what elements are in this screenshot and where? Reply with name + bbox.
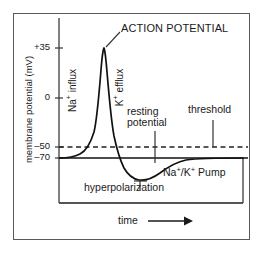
pump-tail: Pump (195, 166, 225, 178)
label-action-potential: ACTION POTENTIAL (121, 23, 228, 35)
x-axis-label-time: time (118, 215, 138, 226)
k-efflux-suffix: efflux (114, 69, 125, 96)
na-influx-text: Na (67, 99, 78, 112)
label-hyperpolarization: hyperpolarization (84, 182, 164, 193)
time-arrow-icon (148, 214, 194, 228)
k-efflux-charge: + (111, 95, 120, 99)
k-efflux-text: K (114, 100, 125, 107)
figure-root: +35 0 –50 –70 membrane potential (mV) Na… (0, 0, 263, 256)
pump-na: Na (163, 166, 176, 178)
pump-slash-k: /K (181, 166, 191, 178)
label-threshold: threshold (188, 104, 231, 115)
na-influx-suffix: influx (67, 69, 78, 95)
label-na-influx: Na+ influx (67, 61, 78, 121)
label-k-efflux: K+ efflux (114, 59, 125, 117)
na-influx-charge: + (64, 95, 73, 99)
action-potential-leader-line (106, 32, 120, 47)
label-nak-pump: Na+/K+ Pump (163, 167, 226, 178)
label-resting-potential: resting potential (127, 106, 167, 128)
y-axis-title: membrane potential (mV) (23, 45, 34, 175)
resting-potential-line2: potential (127, 117, 167, 128)
